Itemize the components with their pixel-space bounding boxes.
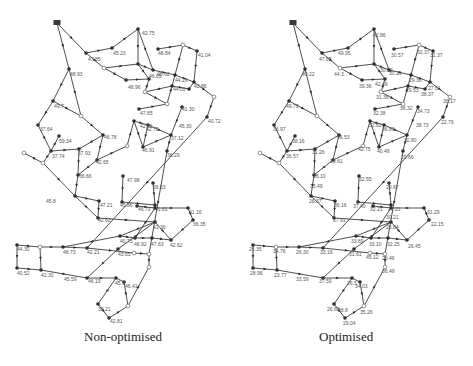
flow-arrow-icon — [355, 65, 358, 68]
pressure-label: 49.79 — [286, 103, 299, 109]
junction-node — [124, 78, 128, 82]
flow-arrow-icon — [301, 107, 305, 111]
pressure-label: 38.73 — [416, 122, 429, 128]
pressure-label: 35.26 — [360, 309, 373, 315]
flow-arrow-icon — [59, 83, 63, 87]
flow-arrow-icon — [263, 245, 266, 248]
pressure-label: 28.8 — [338, 307, 348, 313]
flow-arrow-icon — [148, 259, 151, 262]
pressure-label: 39.36 — [359, 83, 372, 89]
flow-arrow-icon — [430, 65, 433, 68]
junction-node — [136, 62, 140, 66]
flow-arrow-icon — [252, 255, 255, 258]
flow-arrow-icon — [144, 48, 148, 52]
flow-arrow-icon — [31, 156, 35, 160]
pressure-label: 36.89 — [382, 126, 395, 132]
pressure-label: 37.40 — [353, 203, 366, 209]
junction-node — [360, 78, 364, 82]
flow-arrow-icon — [113, 72, 117, 76]
pressure-label: 30.57 — [391, 52, 404, 58]
pressure-label: 36.35 — [193, 221, 206, 227]
pressure-label: 46.78 — [104, 134, 117, 140]
flow-arrow-icon — [411, 119, 415, 123]
pressure-label: 35.49 — [310, 183, 323, 189]
flow-arrow-icon — [194, 65, 197, 68]
junction-node — [151, 68, 155, 72]
pressure-label: 29.53 — [406, 87, 419, 93]
flow-arrow-icon — [372, 227, 376, 231]
pressure-label: 59.34 — [59, 138, 72, 144]
pressure-label: 33.89 — [351, 238, 364, 244]
pressure-label: 45.59 — [64, 276, 77, 282]
pressure-label: 38.21 — [98, 306, 111, 312]
pressure-label: 37.12 — [171, 135, 184, 141]
flow-arrow-icon — [136, 78, 139, 81]
junction-node — [428, 80, 432, 84]
pressure-label: 31.36 — [376, 94, 389, 100]
pressure-label: 47.21 — [100, 202, 113, 208]
pressure-label: 26.35 — [249, 246, 262, 252]
pressure-label: 36.29 — [167, 152, 180, 158]
pressure-label: 40.73 — [120, 238, 133, 244]
flow-arrow-icon — [110, 151, 114, 155]
pressure-label: 46.53 — [337, 134, 350, 140]
junction-node — [320, 51, 324, 55]
pressure-label: 42.86 — [373, 32, 386, 38]
pressure-label: 45.86 — [120, 202, 133, 208]
flow-arrow-icon — [188, 46, 192, 50]
flow-arrow-icon — [263, 268, 266, 271]
flow-arrow-icon — [43, 136, 47, 140]
flow-arrow-icon — [349, 72, 353, 76]
tank-node — [277, 161, 281, 165]
pressure-label: 41.81 — [155, 206, 168, 212]
pressure-label: 45.9 — [115, 280, 125, 286]
flow-arrow-icon — [175, 119, 179, 123]
pressure-label: 49.22 — [302, 71, 315, 77]
pressure-label: 44.30 — [17, 246, 30, 252]
pressure-label: 36.66 — [79, 173, 92, 179]
flow-arrow-icon — [39, 257, 42, 260]
flow-arrow-icon — [378, 237, 381, 240]
junction-node — [84, 51, 88, 55]
pressure-label: 29.61 — [330, 158, 343, 164]
pressure-label: 41.04 — [198, 52, 211, 58]
flow-arrow-icon — [144, 65, 148, 69]
flow-arrow-icon — [267, 156, 271, 160]
pressure-label: 45.12 — [366, 254, 379, 260]
flow-arrow-icon — [357, 187, 360, 190]
flow-arrow-icon — [50, 246, 53, 249]
tank-node — [143, 90, 147, 94]
junction-node — [386, 236, 390, 240]
pressure-label: 29.67 — [386, 184, 399, 190]
pressure-label: 36.57 — [286, 153, 299, 159]
pressure-label: 44.3 — [334, 71, 344, 77]
tank-node — [147, 252, 151, 256]
pressure-label: 32.38 — [373, 110, 386, 116]
pressure-label: 32.62 — [369, 122, 382, 128]
reservoir-icon — [54, 20, 61, 25]
flow-arrow-icon — [299, 149, 302, 152]
pressure-label: 33.59 — [296, 276, 309, 282]
pressure-label: 26.30 — [296, 249, 309, 255]
flow-arrow-icon — [170, 207, 173, 210]
pressure-label: 46.79 — [138, 206, 151, 212]
pressure-label: 37.74 — [52, 153, 65, 159]
pressure-label: 22.79 — [441, 119, 454, 125]
flow-arrow-icon — [295, 83, 299, 87]
pressure-label: 48.93 — [70, 71, 83, 77]
pressure-label: 28.96 — [250, 270, 263, 276]
pressure-label: 27.91 — [333, 217, 346, 223]
pressure-label: 40.49 — [377, 148, 390, 154]
panel-optimised: 49.9547.8542.8630.5732.3731.3749.2244.33… — [249, 20, 456, 326]
flow-arrow-icon — [389, 192, 392, 195]
pressure-label: 32.55 — [359, 176, 372, 182]
pressure-label: 26.46 — [382, 255, 395, 261]
tank-node — [79, 114, 83, 118]
flow-arrow-icon — [77, 160, 80, 163]
tank-node — [315, 114, 319, 118]
pressure-label: 46.92 — [134, 241, 147, 247]
tank-node — [38, 245, 42, 249]
pressure-label: 40.52 — [17, 270, 30, 276]
pressure-label: 42.81 — [110, 318, 123, 324]
pressure-label: 41.36 — [153, 224, 166, 230]
